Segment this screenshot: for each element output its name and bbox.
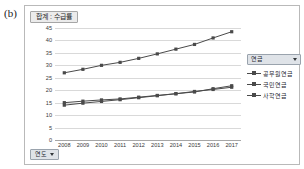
y-axis-tick: 5 <box>49 125 52 131</box>
x-axis-tick: 2011 <box>114 142 126 149</box>
series-line <box>64 87 231 105</box>
series-data-point <box>81 102 84 105</box>
y-axis-tick: 0 <box>49 137 52 143</box>
x-axis-tick: 2009 <box>77 142 89 149</box>
series-data-point <box>119 61 122 64</box>
x-axis-tick: 2017 <box>225 142 237 149</box>
x-axis-tick: 2010 <box>95 142 107 149</box>
y-axis-tick: 40 <box>46 37 52 43</box>
y-axis-tick: 30 <box>46 62 52 68</box>
x-axis-tick: 2012 <box>132 142 144 149</box>
legend-item[interactable]: 공무원연금 <box>247 68 301 79</box>
series-data-point <box>63 71 66 74</box>
legend-marker-icon <box>247 80 261 89</box>
legend-filter-button[interactable]: 연금 <box>247 54 301 65</box>
series-data-point <box>156 52 159 55</box>
legend-item-label: 국민연금 <box>263 81 287 89</box>
series-data-point <box>63 104 66 107</box>
x-axis-line <box>55 140 241 141</box>
series-lines <box>55 28 241 140</box>
x-axis-tick: 2016 <box>207 142 219 149</box>
series-data-point <box>212 36 215 39</box>
category-field-button[interactable]: 연도 <box>30 149 59 160</box>
legend: 연금 공무원연금국민연금사학연금 <box>247 54 301 101</box>
series-data-point <box>156 94 159 97</box>
filter-dropdown-icon[interactable] <box>293 58 297 61</box>
x-axis-tick: 2014 <box>170 142 182 149</box>
x-axis-tick: 2013 <box>151 142 163 149</box>
series-line <box>64 32 231 73</box>
filter-dropdown-icon[interactable] <box>50 153 54 156</box>
series-data-point <box>100 100 103 103</box>
series-data-point <box>230 30 233 33</box>
plot-area <box>55 28 241 140</box>
y-axis-tick: 20 <box>46 87 52 93</box>
panel-label: (b) <box>4 7 17 19</box>
series-data-point <box>193 43 196 46</box>
series-data-point <box>174 48 177 51</box>
series-data-point <box>119 98 122 101</box>
x-axis-tick: 2015 <box>188 142 200 149</box>
series-data-point <box>174 92 177 95</box>
figure-panel-b: (b) 합계 : 수급률 051015202530354045 20082009… <box>0 0 304 169</box>
series-data-point <box>81 68 84 71</box>
series-data-point <box>137 96 140 99</box>
y-axis-tick: 35 <box>46 50 52 56</box>
chart-title-field-button[interactable]: 합계 : 수급률 <box>30 11 78 23</box>
legend-item[interactable]: 국민연금 <box>247 79 301 90</box>
y-axis-tick: 25 <box>46 75 52 81</box>
legend-header-label: 연금 <box>251 55 263 64</box>
legend-marker-icon <box>247 69 261 78</box>
series-line <box>64 86 231 103</box>
x-axis-tick-labels: 2008200920102011201220132014201520162017 <box>55 142 241 152</box>
pivot-chart-frame: 합계 : 수급률 051015202530354045 200820092010… <box>24 5 300 165</box>
series-data-point <box>100 64 103 67</box>
legend-item[interactable]: 사학연금 <box>247 90 301 101</box>
legend-items: 공무원연금국민연금사학연금 <box>247 68 301 101</box>
x-axis-tick: 2008 <box>58 142 70 149</box>
legend-item-label: 공무원연금 <box>263 70 293 78</box>
series-data-point <box>212 88 215 91</box>
legend-marker-icon <box>247 91 261 100</box>
category-field-label: 연도 <box>35 150 47 159</box>
legend-item-label: 사학연금 <box>263 92 287 100</box>
series-data-point <box>137 57 140 60</box>
y-axis-tick: 45 <box>46 25 52 31</box>
y-axis-tick: 15 <box>46 100 52 106</box>
y-axis-tick: 10 <box>46 112 52 118</box>
series-data-point <box>230 86 233 89</box>
series-data-point <box>193 90 196 93</box>
chart-title-label: 합계 : 수급률 <box>36 12 72 22</box>
